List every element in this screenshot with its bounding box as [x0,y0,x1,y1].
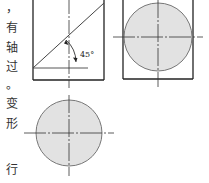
front-view: 45° [33,0,104,88]
projection-drawing: 45° [0,0,209,183]
side-view [113,0,203,87]
top-view [24,95,114,176]
angle-label: 45° [80,50,94,59]
